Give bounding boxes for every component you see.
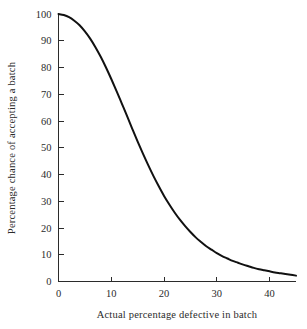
y-tick-label-20: 20 bbox=[41, 223, 52, 234]
y-tick-label-50: 50 bbox=[41, 142, 52, 153]
y-axis-title: Percentage chance of accepting a batch bbox=[6, 61, 17, 234]
y-tick-label-0: 0 bbox=[46, 276, 51, 287]
y-tick-label-30: 30 bbox=[41, 196, 52, 207]
y-tick-label-80: 80 bbox=[41, 62, 52, 73]
y-tick-label-10: 10 bbox=[41, 249, 52, 260]
x-tick-label-20: 20 bbox=[159, 288, 170, 299]
x-axis-title: Actual percentage defective in batch bbox=[97, 309, 258, 320]
y-tick-label-90: 90 bbox=[41, 35, 52, 46]
oc-curve-chart: 0102030405060708090100 010203040 Percent… bbox=[0, 0, 307, 329]
x-tick-label-30: 30 bbox=[212, 288, 223, 299]
y-tick-label-100: 100 bbox=[36, 9, 52, 20]
x-tick-label-40: 40 bbox=[264, 288, 275, 299]
x-tick-label-10: 10 bbox=[106, 288, 117, 299]
y-tick-label-70: 70 bbox=[41, 89, 52, 100]
chart-container: 0102030405060708090100 010203040 Percent… bbox=[0, 0, 307, 329]
y-tick-label-60: 60 bbox=[41, 116, 52, 127]
y-tick-label-40: 40 bbox=[41, 169, 52, 180]
x-tick-label-0: 0 bbox=[56, 288, 61, 299]
